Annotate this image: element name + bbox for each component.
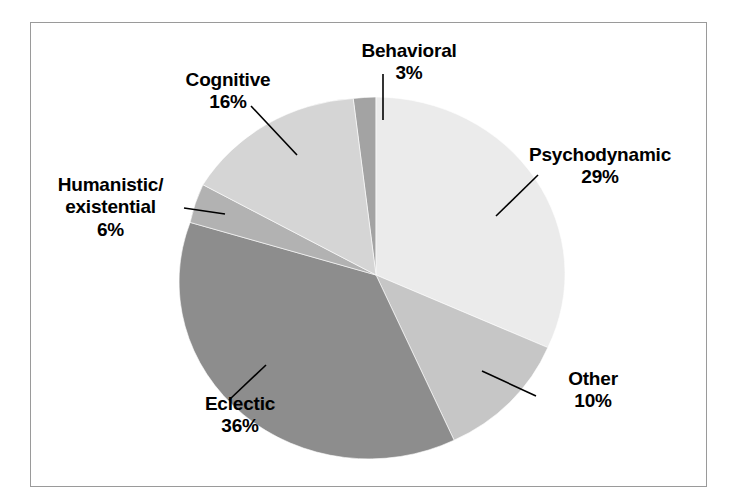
pie-label-cognitive: Cognitive 16% bbox=[158, 69, 298, 114]
pie-label-humanistic-percent: 6% bbox=[28, 219, 193, 241]
pie-label-psychodynamic-percent: 29% bbox=[505, 166, 695, 188]
pie-label-other-name: Other bbox=[538, 368, 648, 390]
pie-label-eclectic-percent: 36% bbox=[175, 415, 305, 437]
pie-label-behavioral: Behavioral 3% bbox=[334, 40, 484, 85]
pie-label-humanistic-name-line1: Humanistic/ bbox=[28, 174, 193, 196]
pie-label-eclectic-name: Eclectic bbox=[175, 393, 305, 415]
pie-label-other-percent: 10% bbox=[538, 390, 648, 412]
pie-label-eclectic: Eclectic 36% bbox=[175, 393, 305, 438]
pie-label-cognitive-percent: 16% bbox=[158, 91, 298, 113]
pie-label-other: Other 10% bbox=[538, 368, 648, 413]
pie-label-humanistic-existential: Humanistic/ existential 6% bbox=[28, 174, 193, 241]
pie-label-cognitive-name: Cognitive bbox=[158, 69, 298, 91]
pie-label-psychodynamic-name: Psychodynamic bbox=[505, 144, 695, 166]
pie-chart-figure: Behavioral 3% Cognitive 16% Humanistic/ … bbox=[0, 0, 733, 504]
pie-label-humanistic-name-line2: existential bbox=[28, 196, 193, 218]
pie-label-psychodynamic: Psychodynamic 29% bbox=[505, 144, 695, 189]
pie-label-behavioral-name: Behavioral bbox=[334, 40, 484, 62]
pie-label-behavioral-percent: 3% bbox=[334, 62, 484, 84]
